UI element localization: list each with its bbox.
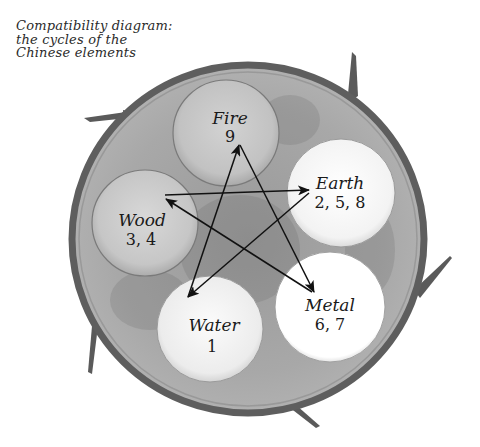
water-label: Water <box>188 315 240 335</box>
fire-label: Fire <box>211 108 247 128</box>
element-metal[interactable]: Metal 6, 7 <box>275 252 385 362</box>
element-earth[interactable]: Earth 2, 5, 8 <box>287 139 395 247</box>
element-wood[interactable]: Wood 3, 4 <box>92 170 198 276</box>
wood-numbers: 3, 4 <box>126 230 157 249</box>
element-fire[interactable]: Fire 9 <box>173 80 279 186</box>
wood-label: Wood <box>118 210 166 230</box>
metal-numbers: 6, 7 <box>315 315 346 334</box>
element-water[interactable]: Water 1 <box>157 276 263 382</box>
water-numbers: 1 <box>207 337 217 356</box>
fire-numbers: 9 <box>225 127 235 146</box>
metal-label: Metal <box>304 295 355 315</box>
earth-label: Earth <box>315 173 364 193</box>
elements-cycle-diagram: Fire 9 Earth 2, 5, 8 Wood 3, 4 Water 1 M… <box>0 0 480 447</box>
earth-numbers: 2, 5, 8 <box>315 193 366 212</box>
